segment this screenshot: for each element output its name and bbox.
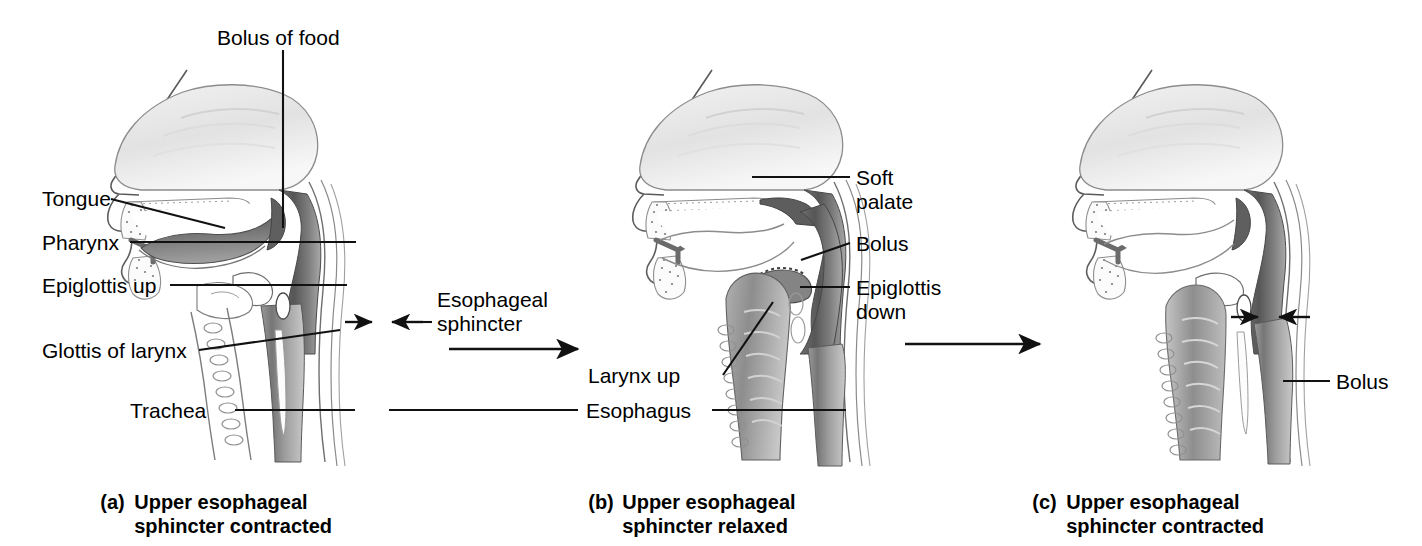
caption-a-line1: Upper esophageal [134, 491, 307, 513]
anatomy-illustration [0, 0, 1422, 546]
caption-panel-b: (b)Upper esophagealsphincter relaxed [566, 466, 796, 546]
caption-c-line2: sphincter contracted [1066, 515, 1264, 537]
caption-letter-a: (a) [100, 490, 134, 514]
label-epiglottis-up: Epiglottis up [42, 273, 156, 298]
label-epiglottis-down-line2: down [856, 299, 906, 324]
label-glottis-of-larynx: Glottis of larynx [42, 338, 187, 363]
label-esophageal-sphincter-line2: sphincter [437, 311, 522, 336]
label-tongue: Tongue [42, 186, 111, 211]
label-bolus-b: Bolus [856, 231, 909, 256]
label-trachea: Trachea [130, 398, 206, 423]
panel-c-anatomy [1073, 70, 1310, 466]
caption-panel-a: (a)Upper esophagealsphincter contracted [78, 466, 332, 546]
label-bolus-of-food: Bolus of food [217, 25, 340, 50]
label-pharynx: Pharynx [42, 230, 119, 255]
label-esophagus: Esophagus [586, 398, 691, 423]
caption-c-line1: Upper esophageal [1066, 491, 1239, 513]
swallowing-figure: Bolus of food Tongue Pharynx Epiglottis … [0, 0, 1422, 546]
label-bolus-c: Bolus [1336, 369, 1389, 394]
caption-b-line2: sphincter relaxed [622, 515, 788, 537]
caption-a-line2: sphincter contracted [134, 515, 332, 537]
label-soft-palate-line2: palate [856, 189, 913, 214]
caption-panel-c: (c)Upper esophagealsphincter contracted [1010, 466, 1264, 546]
caption-b-line1: Upper esophageal [622, 491, 795, 513]
label-epiglottis-down-line1: Epiglottis [856, 275, 941, 300]
caption-letter-c: (c) [1032, 490, 1066, 514]
caption-letter-b: (b) [588, 490, 622, 514]
label-esophageal-sphincter-line1: Esophageal [437, 287, 548, 312]
label-soft-palate-line1: Soft [856, 165, 893, 190]
label-larynx-up: Larynx up [588, 363, 680, 388]
